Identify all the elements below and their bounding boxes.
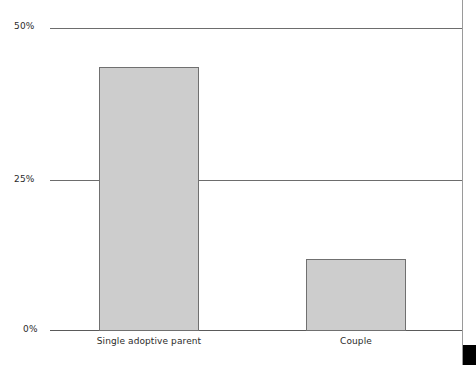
x-label-single-adoptive-parent: Single adoptive parent — [79, 336, 219, 346]
y-tick-label-25: 25% — [14, 174, 34, 184]
bar-single-adoptive-parent — [99, 67, 199, 331]
page-corner-artifact — [463, 345, 476, 365]
bar-chart-figure: 50% 25% 0% Single adoptive parent Couple — [0, 0, 476, 365]
plot-area: 50% 25% 0% Single adoptive parent Couple — [0, 0, 476, 365]
x-label-couple: Couple — [306, 336, 406, 346]
gridline-50 — [50, 28, 462, 29]
y-tick-label-0: 0% — [23, 324, 34, 334]
bar-couple — [306, 259, 406, 331]
y-tick-label-50: 50% — [14, 21, 34, 31]
page-edge-rule — [462, 0, 463, 365]
